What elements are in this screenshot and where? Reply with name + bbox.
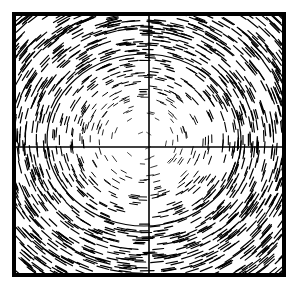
vector-field-plot	[0, 0, 296, 290]
